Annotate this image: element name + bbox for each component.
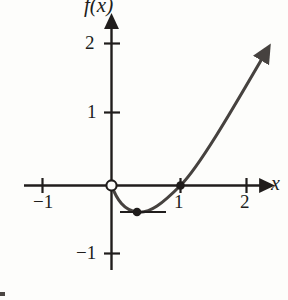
page-corner-artifact: [0, 292, 5, 296]
graph-canvas: [0, 0, 288, 300]
function-graph-figure: f(x) x −1 1 2 2 1 −1: [0, 0, 288, 300]
y-tick-label-1: 1: [87, 102, 97, 121]
x-tick-label-2: 2: [240, 192, 250, 211]
open-point-origin: [106, 180, 116, 190]
x-tick-label-neg1: −1: [33, 192, 53, 211]
function-label: f(x): [84, 0, 113, 16]
y-tick-label-neg1: −1: [76, 243, 96, 262]
y-tick-label-2: 2: [85, 33, 95, 52]
closed-point-minimum: [133, 208, 142, 217]
function-curve: [112, 57, 264, 212]
x-axis-label: x: [271, 173, 280, 193]
x-tick-label-1: 1: [174, 192, 184, 211]
closed-point-x-intercept: [176, 181, 185, 190]
